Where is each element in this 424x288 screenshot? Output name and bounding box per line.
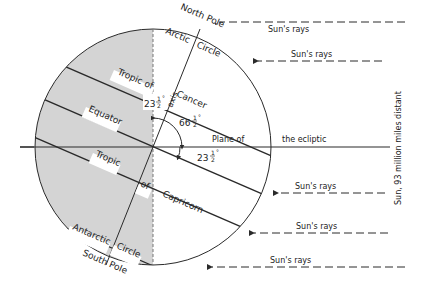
svg-text:66: 66 (179, 118, 191, 128)
the-ecliptic-label: the ecliptic (282, 135, 326, 144)
svg-text:2: 2 (211, 156, 215, 163)
arctic-label: Arctic (164, 26, 191, 45)
svg-text:1: 1 (193, 114, 197, 121)
earth-tilt-diagram: Sun's rays Sun's rays Sun's rays Sun's r… (0, 0, 424, 288)
cancer-label: Cancer (175, 89, 208, 111)
angle-label-axis: 23 1 2 ° (143, 94, 167, 110)
svg-text:1: 1 (211, 149, 215, 156)
svg-text:2: 2 (157, 102, 161, 109)
capricorn-label: Capricorn (161, 189, 205, 215)
svg-text:23: 23 (144, 99, 155, 109)
axis-label: axis (166, 91, 180, 109)
svg-text:°: ° (216, 148, 219, 155)
sun-ray-label-4: Sun's rays (296, 222, 337, 231)
sun-ray-label-2: Sun's rays (291, 50, 332, 59)
angle-label-66: 66 1 2 ° (179, 113, 201, 128)
plane-of-label: Plane of (212, 135, 244, 144)
angle-label-ecliptic: 23 1 2 ° (197, 148, 219, 163)
angle-arc-ecliptic (178, 147, 180, 158)
svg-text:2: 2 (193, 121, 197, 128)
svg-text:1: 1 (157, 95, 161, 102)
sun-distance-label: Sun, 93 million miles distant (394, 91, 403, 205)
svg-text:23: 23 (197, 153, 208, 163)
sun-ray-label-3: Sun's rays (295, 182, 336, 191)
svg-text:°: ° (198, 113, 201, 120)
angle-arc-66 (153, 118, 182, 147)
sun-ray-label-5: Sun's rays (270, 256, 311, 265)
sun-ray-label-1: Sun's rays (268, 25, 309, 34)
svg-text:°: ° (162, 94, 165, 101)
